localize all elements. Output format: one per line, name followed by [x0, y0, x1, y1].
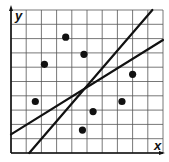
data-point	[62, 34, 69, 41]
data-point	[80, 51, 87, 58]
data-point	[41, 61, 48, 68]
data-point	[32, 98, 39, 105]
data-point	[118, 98, 125, 105]
grid	[11, 10, 163, 153]
x-axis-label: x	[153, 138, 162, 153]
y-axis-arrow-icon	[9, 5, 13, 11]
y-axis-label: y	[14, 8, 23, 23]
data-point	[89, 108, 96, 115]
scatter-plot: y x	[0, 0, 169, 162]
data-point	[79, 127, 86, 134]
data-point	[129, 71, 136, 78]
